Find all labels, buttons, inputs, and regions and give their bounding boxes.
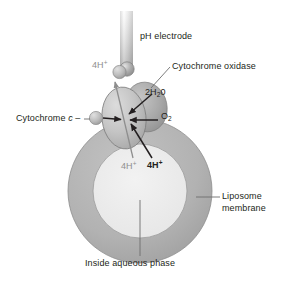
water-subscript: 2: [157, 91, 161, 98]
oxygen-subscript: 2: [168, 115, 172, 122]
protons-consumed-label: 4H+: [147, 160, 163, 171]
liposome-line-2: membrane: [222, 203, 266, 213]
water-product-label: 2H20: [145, 87, 166, 98]
water-prefix: 2H: [145, 87, 157, 97]
inside-aqueous-phase-label: Inside aqueous phase: [85, 258, 175, 269]
protons-pumped-label: 4H+: [121, 161, 137, 172]
protons-out-label: 4H+: [92, 60, 108, 71]
protons-consumed-text: 4H: [147, 160, 159, 170]
oxygen-label: O2: [161, 111, 172, 122]
water-suffix: 0: [160, 87, 165, 97]
protons-out-charge: +: [104, 59, 108, 66]
cytochrome-oxidase-label: Cytochrome oxidase: [172, 61, 256, 72]
liposome-membrane-label: Liposomemembrane: [222, 191, 284, 214]
cytochrome-c-dash: –: [73, 113, 81, 123]
protons-pumped-text: 4H: [121, 161, 133, 171]
cytochrome-c-sphere-icon: [89, 111, 102, 124]
cytochrome-c-text: Cytochrome: [16, 113, 68, 123]
leader-line-icon-cyt-oxidase: [151, 67, 170, 88]
protons-consumed-charge: +: [159, 159, 163, 166]
ph-electrode-label: pH electrode: [140, 31, 192, 42]
diagram-canvas: pH electrode Cytochrome oxidase 2H20 O2 …: [0, 0, 291, 281]
protons-out-text: 4H: [92, 60, 104, 70]
protons-pumped-charge: +: [133, 160, 137, 167]
cytochrome-c-label: Cytochrome c –: [16, 113, 80, 124]
diagram-graphics-layer: [0, 0, 291, 281]
liposome-line-1: Liposome: [222, 191, 262, 201]
proton-sphere-icon: [113, 65, 126, 78]
